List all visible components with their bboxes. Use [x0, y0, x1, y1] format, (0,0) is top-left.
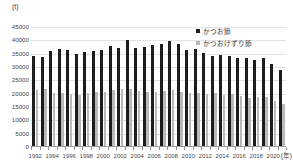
x-axis-tickmark [235, 147, 236, 150]
y-axis-tick-label: 10000 [1, 117, 29, 123]
x-axis-tickmark [150, 147, 151, 150]
bar-group [48, 27, 57, 146]
bar [240, 96, 243, 147]
legend-item-series-1: かつお節 [196, 25, 252, 37]
y-axis-tick-label: 15000 [1, 104, 29, 110]
x-axis-tickmark [108, 147, 109, 150]
x-axis-tickmark [99, 147, 100, 150]
bar [231, 94, 234, 146]
bar [36, 90, 39, 146]
x-axis-tickmark [48, 147, 49, 150]
y-axis-tick-label: 20000 [1, 91, 29, 97]
bar [53, 93, 56, 146]
bar [257, 97, 260, 146]
x-axis-tick-label: 2008 [165, 152, 178, 160]
x-axis-tickmark [40, 147, 41, 150]
x-axis-labels: 1992199419961998200020022004200620082010… [31, 152, 286, 164]
x-axis-tickmark [31, 147, 32, 150]
bar [180, 92, 183, 146]
bar-group [167, 27, 176, 146]
y-axis-tick-label: 5000 [1, 131, 29, 137]
bar-group [82, 27, 91, 146]
x-axis-tick-label: 2016 [233, 152, 246, 160]
bar-group [108, 27, 117, 146]
bar [138, 91, 141, 146]
x-axis-tick-label: 1992 [29, 152, 42, 160]
bar [78, 95, 81, 146]
bar [265, 97, 268, 146]
bar-chart: (t) 450004000035000300002500020000150001… [0, 0, 293, 168]
y-axis-tick-label: 0 [1, 144, 29, 150]
bar [146, 92, 149, 146]
bar [248, 98, 251, 146]
bar-group [184, 27, 193, 146]
x-axis-tick-label: 1996 [63, 152, 76, 160]
x-axis-tick-label: 2012 [199, 152, 212, 160]
bar [223, 95, 226, 146]
bar-group [31, 27, 40, 146]
bar [129, 89, 132, 146]
legend-swatch-icon [196, 29, 200, 33]
x-axis-tick-label: 2020 [267, 152, 280, 160]
bar-group [261, 27, 270, 146]
x-axis-tick-label: 1994 [46, 152, 59, 160]
x-axis-tickmark [278, 147, 279, 150]
x-axis-tickmark [269, 147, 270, 150]
bar-group [278, 27, 287, 146]
x-axis-tick-label: 2006 [148, 152, 161, 160]
x-axis-tick-label: 2002 [114, 152, 127, 160]
bar-group [99, 27, 108, 146]
bar-group [91, 27, 100, 146]
y-axis-tick-label: 25000 [1, 77, 29, 83]
bar [61, 93, 64, 146]
x-axis-tickmark [227, 147, 228, 150]
bar-group [252, 27, 261, 146]
x-axis-tickmark [142, 147, 143, 150]
bar [274, 101, 277, 146]
bar-group [40, 27, 49, 146]
bar [163, 91, 166, 146]
x-axis-tickmark [261, 147, 262, 150]
x-axis-tickmark [159, 147, 160, 150]
y-axis-tick-label: 35000 [1, 51, 29, 57]
bar-group [65, 27, 74, 146]
bar-group [159, 27, 168, 146]
bar-group [133, 27, 142, 146]
legend-swatch-icon [196, 41, 200, 45]
x-axis-tickmark [201, 147, 202, 150]
x-axis-tickmark [210, 147, 211, 150]
y-axis-unit-label: (t) [12, 3, 19, 10]
x-axis-tickmark [184, 147, 185, 150]
bar [206, 94, 209, 146]
x-axis-tickmark [125, 147, 126, 150]
x-axis-tickmark [65, 147, 66, 150]
bar-group [269, 27, 278, 146]
bar [197, 93, 200, 146]
bar-group [150, 27, 159, 146]
x-axis-tickmark [116, 147, 117, 150]
bar [282, 104, 285, 146]
bar-group [125, 27, 134, 146]
x-axis-tick-label: 2004 [131, 152, 144, 160]
legend-item-series-2: かつおけずり節 [196, 37, 252, 49]
x-axis-tickmark [244, 147, 245, 150]
bar [87, 93, 90, 146]
x-axis-unit-label: (年) [281, 150, 292, 160]
x-axis-tickmark [74, 147, 75, 150]
bar [70, 94, 73, 146]
bar [214, 93, 217, 146]
y-axis: 4500040000350003000025000200001500010000… [0, 27, 29, 147]
x-axis-tickmark [167, 147, 168, 150]
y-axis-tick-label: 30000 [1, 64, 29, 70]
bar [121, 89, 124, 146]
x-axis-tickmark [133, 147, 134, 150]
x-axis-tickmark [82, 147, 83, 150]
x-axis-tick-label: 1998 [80, 152, 93, 160]
x-axis-tickmark [218, 147, 219, 150]
bar [104, 92, 107, 146]
bar-group [116, 27, 125, 146]
bar-group [74, 27, 83, 146]
bar [44, 89, 47, 146]
x-axis-tick-label: 2014 [216, 152, 229, 160]
bar [172, 90, 175, 146]
